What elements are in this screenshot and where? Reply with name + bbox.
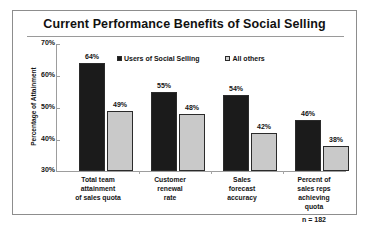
plot-area: 70% 60% 50% 40% 30% 64% 49% <box>56 44 346 172</box>
bar-series-2-category-4: 38% <box>323 146 349 171</box>
category-separator <box>139 171 140 174</box>
sample-size-note: n = 182 <box>275 216 353 223</box>
bar-value-label: 46% <box>301 110 315 117</box>
bar-value-label: 38% <box>329 136 343 143</box>
chart-title: Current Performance Benefits of Social S… <box>13 17 356 31</box>
category-label-2: Customer renewal rate <box>131 175 209 202</box>
category-label-3: Sales forecast accuracy <box>203 175 281 202</box>
title-divider <box>27 36 344 37</box>
bar-group-1: 64% 49% <box>77 44 137 171</box>
category-label-4: Percent of sales reps achieving quota <box>275 175 353 211</box>
bar-group-2: 55% 48% <box>149 44 209 171</box>
bar-series-2-category-2: 48% <box>179 114 205 171</box>
y-tick-30: 30% <box>26 171 64 172</box>
bar-value-label: 64% <box>85 53 99 60</box>
category-separator <box>211 171 212 174</box>
bar-value-label: 42% <box>257 123 271 130</box>
bar-series-1-category-3: 54% <box>223 95 249 171</box>
bar-value-label: 54% <box>229 85 243 92</box>
bar-group-3: 54% 42% <box>221 44 281 171</box>
category-separator <box>283 171 284 174</box>
y-axis-title: Percentage of Attainment <box>30 47 37 167</box>
bars-layer: 64% 49% 55% 48% 54% <box>57 44 346 171</box>
bar-series-1-category-1: 64% <box>79 63 105 171</box>
bar-series-2-category-1: 49% <box>107 111 133 171</box>
bar-value-label: 55% <box>157 82 171 89</box>
category-label-1: Total team attainment of sales quota <box>59 175 137 202</box>
bar-series-1-category-4: 46% <box>295 120 321 171</box>
bar-value-label: 49% <box>113 101 127 108</box>
bar-value-label: 48% <box>185 104 199 111</box>
chart-frame: Current Performance Benefits of Social S… <box>12 10 357 215</box>
bar-group-4: 46% 38% <box>293 44 353 171</box>
bar-series-1-category-2: 55% <box>151 92 177 171</box>
bar-series-2-category-3: 42% <box>251 133 277 171</box>
x-axis-line <box>56 171 346 172</box>
